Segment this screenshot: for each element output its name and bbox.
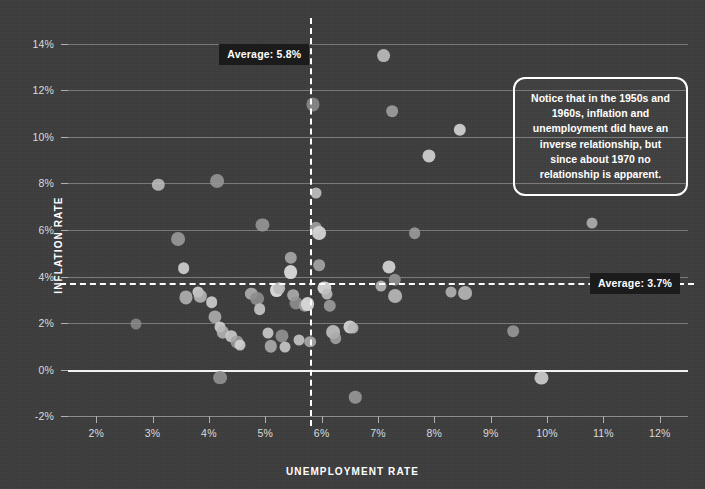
y-tick-label: 8% [8, 177, 54, 189]
scatter-point [130, 319, 141, 330]
x-tick-label: 10% [536, 427, 558, 439]
scatter-point [322, 288, 333, 299]
average-badge-inflation: Average: 3.7% [590, 273, 680, 294]
y-tick-mark [61, 230, 68, 231]
y-tick-mark [61, 183, 68, 184]
y-tick-mark [61, 370, 68, 371]
scatter-point [349, 391, 361, 403]
scatter-point [265, 340, 277, 352]
gridline [68, 230, 688, 231]
scatter-point [284, 265, 298, 279]
y-tick-label: -2% [8, 410, 54, 422]
x-tick-label: 4% [201, 427, 217, 439]
scatter-point [263, 328, 274, 339]
x-tick-mark [153, 416, 154, 423]
scatter-point [254, 303, 266, 315]
scatter-point [234, 340, 245, 351]
x-tick-mark [603, 416, 604, 423]
scatter-point [422, 149, 435, 162]
y-tick-mark [61, 44, 68, 45]
y-tick-mark [61, 277, 68, 278]
x-tick-mark [322, 416, 323, 423]
x-tick-mark [96, 416, 97, 423]
x-tick-mark [660, 416, 661, 423]
y-tick-label: 0% [8, 364, 54, 376]
scatter-point [152, 178, 164, 190]
x-tick-mark [491, 416, 492, 423]
scatter-point [307, 98, 320, 111]
x-tick-mark [378, 416, 379, 423]
y-tick-label: 2% [8, 317, 54, 329]
scatter-point [301, 298, 315, 312]
x-tick-label: 6% [314, 427, 330, 439]
scatter-point [330, 332, 342, 344]
x-tick-label: 11% [593, 427, 614, 439]
scatter-point [284, 252, 296, 264]
x-tick-label: 8% [427, 427, 443, 439]
x-tick-label: 3% [145, 427, 161, 439]
gridline [68, 370, 688, 372]
annotation-note: Notice that in the 1950s and 1960s, infl… [513, 77, 688, 196]
average-line-vertical [310, 18, 312, 426]
scatter-point [347, 322, 358, 333]
x-tick-label: 5% [257, 427, 273, 439]
scatter-point [507, 325, 519, 337]
scatter-point [375, 280, 386, 291]
y-tick-label: 12% [8, 84, 54, 96]
scatter-point [409, 228, 421, 240]
scatter-point [180, 291, 193, 304]
y-tick-label: 6% [8, 224, 54, 236]
scatter-point [280, 342, 291, 353]
scatter-point [446, 286, 457, 297]
scatter-point [535, 371, 548, 384]
x-tick-label: 9% [483, 427, 499, 439]
x-tick-label: 7% [370, 427, 386, 439]
x-tick-label: 2% [88, 427, 104, 439]
gridline [68, 323, 688, 324]
scatter-point [388, 289, 402, 303]
scatter-point [377, 49, 391, 63]
x-tick-mark [547, 416, 548, 423]
y-tick-mark [61, 416, 68, 417]
scatter-point [458, 286, 472, 300]
scatter-point [213, 371, 227, 385]
y-tick-mark [61, 90, 68, 91]
scatter-point [324, 299, 336, 311]
gridline [68, 44, 688, 45]
y-axis-title: INFLATION RATE [53, 196, 64, 293]
scatter-point [194, 290, 206, 302]
x-axis-title: UNEMPLOYMENT RATE [0, 466, 705, 477]
average-badge-unemployment: Average: 5.8% [219, 44, 309, 65]
scatter-point [587, 218, 598, 229]
y-tick-label: 4% [8, 271, 54, 283]
x-tick-mark [434, 416, 435, 423]
scatter-point [383, 261, 396, 274]
scatter-point [276, 329, 289, 342]
scatter-point [294, 335, 305, 346]
x-tick-label: 12% [649, 427, 671, 439]
y-tick-label: 10% [8, 131, 54, 143]
scatter-point [171, 232, 185, 246]
scatter-point [312, 227, 326, 241]
scatter-point [178, 263, 190, 275]
y-tick-mark [61, 323, 68, 324]
chart-root: INFLATION RATE UNEMPLOYMENT RATE 14%12%1… [0, 0, 705, 489]
scatter-point [206, 296, 218, 308]
x-tick-mark [209, 416, 210, 423]
scatter-point [210, 174, 224, 188]
scatter-point [386, 106, 398, 118]
y-tick-label: 14% [8, 38, 54, 50]
x-tick-mark [265, 416, 266, 423]
scatter-point [313, 259, 325, 271]
y-tick-mark [61, 137, 68, 138]
scatter-point [454, 124, 466, 136]
